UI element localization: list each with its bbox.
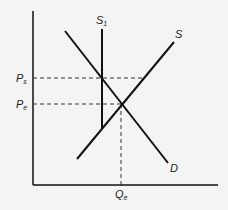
demand-label: D: [170, 162, 178, 174]
demand-curve: [65, 31, 168, 163]
supply-1-label: S1: [96, 14, 107, 27]
diagram-canvas: S1 S D Ps Pe Qe: [0, 0, 228, 210]
supply-label: S: [175, 28, 183, 40]
supply-demand-diagram: S1 S D Ps Pe Qe: [0, 0, 228, 210]
pe-label: Pe: [16, 98, 27, 111]
qe-label: Qe: [115, 188, 128, 201]
supply-curve: [77, 42, 174, 159]
ps-label: Ps: [16, 72, 27, 85]
